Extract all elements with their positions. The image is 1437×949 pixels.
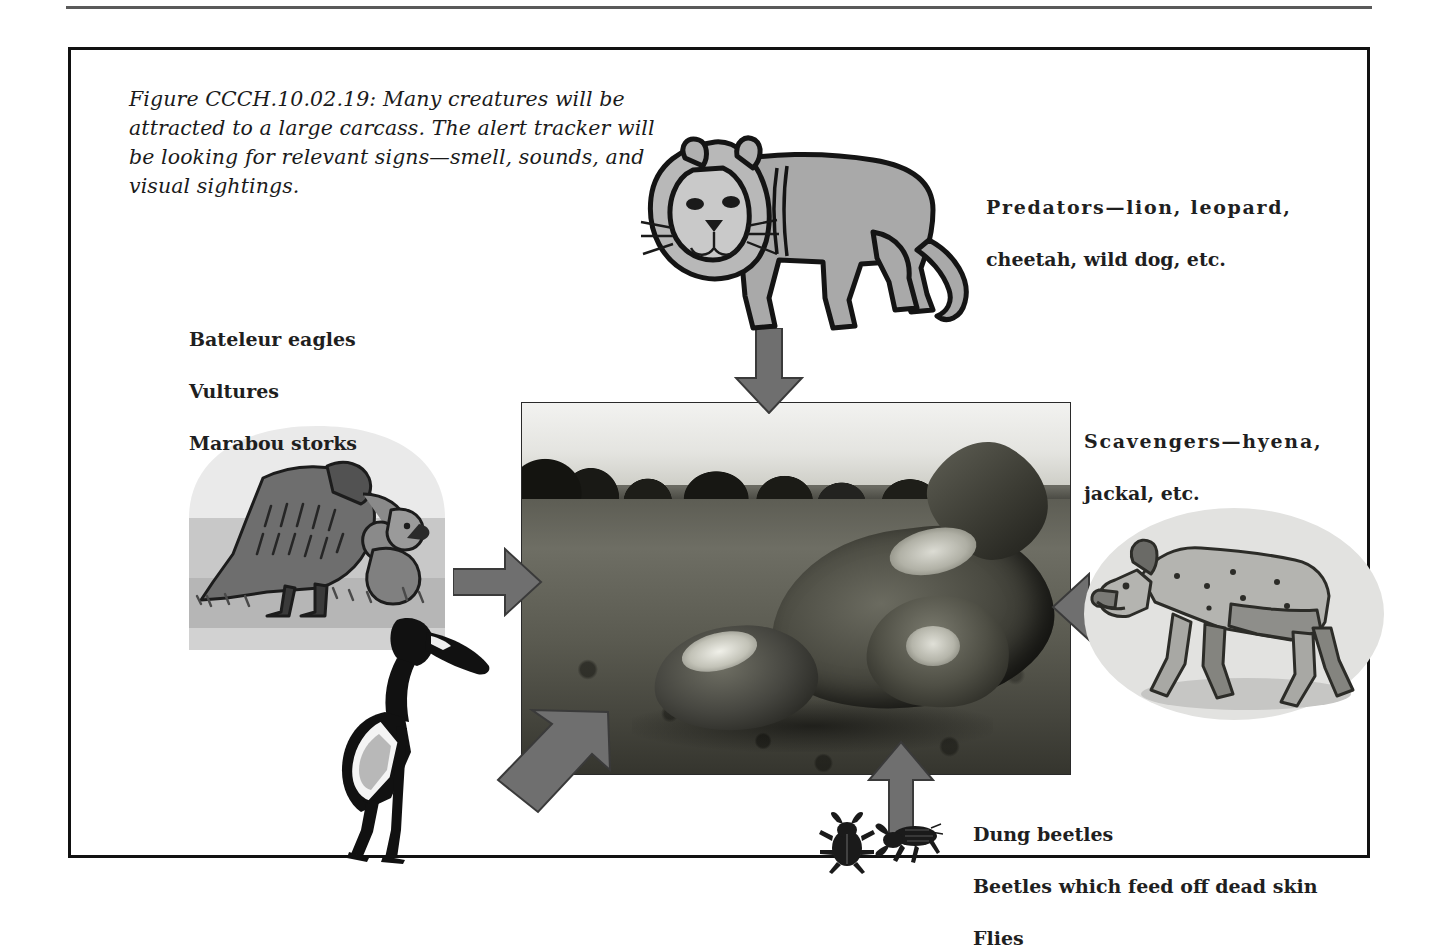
- label-scavengers-line2: jackal, etc.: [1084, 480, 1414, 506]
- label-birds-line3: Marabou storks: [189, 430, 519, 456]
- label-birds-line1: Bateleur eagles: [189, 326, 519, 352]
- label-predators: Predators—lion, leopard, cheetah, wild d…: [986, 168, 1386, 298]
- label-scavengers-line1: Scavengers—hyena,: [1084, 428, 1414, 454]
- beetles-illustration: [819, 812, 943, 874]
- label-scavengers: Scavengers—hyena, jackal, etc.: [1084, 402, 1414, 532]
- figure-caption: Figure CCCH.10.02.19: Many creatures wil…: [129, 85, 659, 201]
- label-insects-line3: Flies: [973, 925, 1403, 949]
- label-predators-line2: cheetah, wild dog, etc.: [986, 246, 1386, 272]
- lion-illustration: [611, 112, 991, 362]
- label-birds: Bateleur eagles Vultures Marabou storks: [189, 300, 519, 482]
- marabou-stork-illustration: [339, 602, 499, 864]
- figure-frame: Figure CCCH.10.02.19: Many creatures wil…: [68, 47, 1370, 858]
- label-insects-line1: Dung beetles: [973, 821, 1403, 847]
- hyena-illustration: [1081, 498, 1387, 726]
- label-insects-line2: Beetles which feed off dead skin: [973, 873, 1403, 899]
- page-top-rule: [66, 6, 1372, 9]
- label-birds-line2: Vultures: [189, 378, 519, 404]
- label-insects: Dung beetles Beetles which feed off dead…: [973, 795, 1403, 949]
- label-predators-line1: Predators—lion, leopard,: [986, 194, 1386, 220]
